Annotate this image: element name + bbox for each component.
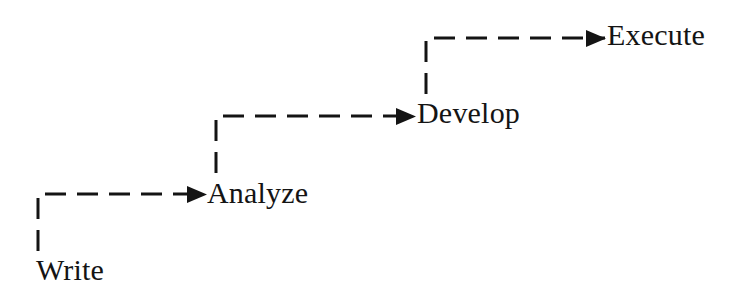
connector-write-to-analyze xyxy=(38,186,207,251)
arrowhead-icon-analyze-to-develop xyxy=(396,108,416,125)
step-label-develop: Develop xyxy=(417,98,520,128)
connector-path-write-to-analyze xyxy=(38,194,205,251)
connector-develop-to-execute xyxy=(426,30,606,94)
arrowhead-icon-develop-to-execute xyxy=(586,30,606,47)
connector-analyze-to-develop xyxy=(216,108,416,173)
process-flow-diagram: Write Analyze Develop Execute xyxy=(0,0,748,306)
step-label-analyze: Analyze xyxy=(207,178,308,208)
step-label-write: Write xyxy=(36,255,104,285)
connector-path-develop-to-execute xyxy=(426,38,605,94)
arrowhead-icon-write-to-analyze xyxy=(187,186,207,203)
step-label-execute: Execute xyxy=(607,20,705,50)
connector-path-analyze-to-develop xyxy=(216,116,415,173)
